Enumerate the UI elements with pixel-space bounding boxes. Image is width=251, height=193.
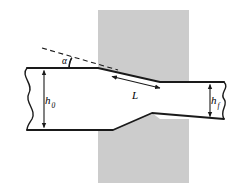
initial-thickness-subscript: 0 [52, 101, 56, 110]
die-angle-label: α [62, 56, 68, 66]
rolling-diagram-svg: α h 0 h f L [0, 0, 251, 193]
workpiece-body [27, 68, 224, 130]
alpha-angle-tick [69, 58, 72, 68]
figure-container: α h 0 h f L [0, 0, 251, 193]
initial-thickness-symbol: h [45, 94, 51, 106]
final-thickness-symbol: h [211, 94, 217, 106]
contact-length-label: L [131, 89, 138, 101]
